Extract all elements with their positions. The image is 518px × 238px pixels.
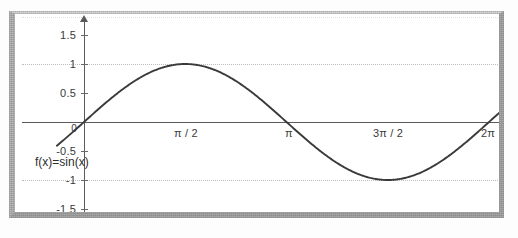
figure-frame: 1.5 1 0.5 0 -0.5 -1 -1.5 π / 2 π 3π / 2 … (9, 11, 504, 218)
x-tick-label-2pi: 2π (474, 127, 499, 139)
series-annotation-label: f(x)=sin(x) (35, 155, 89, 169)
plot-coordinate-layer: 1.5 1 0.5 0 -0.5 -1 -1.5 π / 2 π 3π / 2 … (15, 14, 499, 212)
x-tick-label-pi: π (275, 127, 303, 139)
y-tick-label-minus-1-5: -1.5 (44, 203, 76, 212)
y-tick-label-0: 0 (61, 123, 77, 134)
y-tick-label-1-5: 1.5 (46, 29, 76, 41)
x-tick-label-pi-over-2: π / 2 (160, 127, 212, 139)
sine-curve (15, 14, 499, 212)
y-tick-label-minus-1: -1 (46, 174, 76, 186)
page-surface: 1.5 1 0.5 0 -0.5 -1 -1.5 π / 2 π 3π / 2 … (0, 0, 518, 238)
y-tick-label-0-5: 0.5 (46, 87, 76, 99)
y-tick-label-1: 1 (46, 58, 76, 70)
x-tick-label-3pi-over-2: 3π / 2 (359, 127, 417, 139)
plot-area: 1.5 1 0.5 0 -0.5 -1 -1.5 π / 2 π 3π / 2 … (15, 14, 499, 212)
screenshot-root: 1.5 1 0.5 0 -0.5 -1 -1.5 π / 2 π 3π / 2 … (0, 0, 518, 238)
